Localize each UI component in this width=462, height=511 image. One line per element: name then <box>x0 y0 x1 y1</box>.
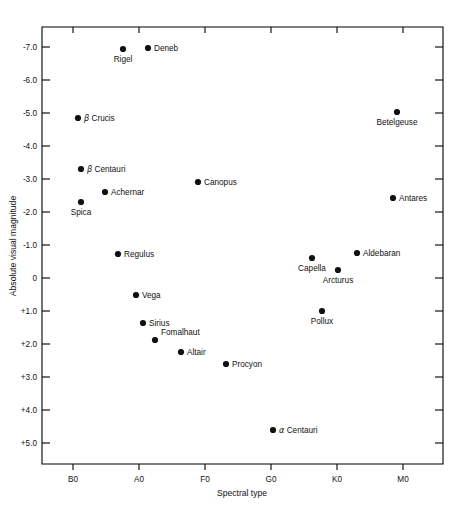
y-axis-title: Absolute visual magnitude <box>8 196 18 297</box>
data-point <box>133 292 139 298</box>
data-point-label: Achernar <box>111 188 144 197</box>
data-point <box>394 109 400 115</box>
x-tick-label-K0: K0 <box>332 475 342 484</box>
y-tick-label--3.0: -3.0 <box>23 175 38 184</box>
data-point-label: Fomalhaut <box>161 328 200 337</box>
data-point <box>178 349 184 355</box>
data-point-label: β Crucis <box>83 113 115 123</box>
data-point-label: Pollux <box>311 317 333 326</box>
y-tick-label--5.0: -5.0 <box>23 109 38 118</box>
data-point-label: Spica <box>71 208 92 217</box>
data-point <box>78 199 84 205</box>
x-tick-label-M0: M0 <box>397 475 409 484</box>
data-point-label: Antares <box>399 194 427 203</box>
y-tick-label-+1.0: +1.0 <box>21 307 38 316</box>
data-point <box>270 427 276 433</box>
data-point-label: Altair <box>187 348 206 357</box>
data-point-label: Rigel <box>114 55 133 64</box>
x-tick-label-A0: A0 <box>134 475 144 484</box>
data-point-label: Arcturus <box>323 276 353 285</box>
x-tick-label-B0: B0 <box>68 475 78 484</box>
data-point-label: Capella <box>298 264 326 273</box>
hr-diagram-figure: B0A0F0G0K0M0 -7.0-6.0-5.0-4.0-3.0-2.0-1.… <box>0 0 462 511</box>
axis-frame <box>42 27 443 464</box>
x-axis-title: Spectral type <box>217 488 267 498</box>
y-axis-tick-labels: -7.0-6.0-5.0-4.0-3.0-2.0-1.00+1.0+2.0+3.… <box>21 43 38 448</box>
data-point <box>140 320 146 326</box>
y-tick-label-+5.0: +5.0 <box>21 439 38 448</box>
data-point <box>152 337 158 343</box>
data-point-label: Deneb <box>154 44 179 53</box>
data-point-label: Vega <box>142 291 161 300</box>
data-point-label: Aldebaran <box>363 249 401 258</box>
data-point <box>145 45 151 51</box>
data-point-label: β Centauri <box>86 164 126 174</box>
y-tick-label--6.0: -6.0 <box>23 76 38 85</box>
x-axis-ticks <box>73 27 403 470</box>
data-point <box>319 308 325 314</box>
data-point-label: Canopus <box>204 178 237 187</box>
y-tick-label-+2.0: +2.0 <box>21 340 38 349</box>
y-axis-ticks <box>42 47 443 443</box>
y-tick-label--1.0: -1.0 <box>23 241 38 250</box>
x-tick-label-G0: G0 <box>266 475 277 484</box>
data-point-label: Regulus <box>124 250 154 259</box>
data-point-label: Procyon <box>232 360 262 369</box>
data-point <box>309 255 315 261</box>
data-point-label: Betelgeuse <box>377 118 418 127</box>
y-tick-label--7.0: -7.0 <box>23 43 38 52</box>
y-tick-label-+3.0: +3.0 <box>21 373 38 382</box>
data-point <box>78 166 84 172</box>
x-tick-label-F0: F0 <box>200 475 210 484</box>
data-point <box>115 251 121 257</box>
y-tick-label--2.0: -2.0 <box>23 208 38 217</box>
data-point-label: α Centauri <box>279 425 318 435</box>
scatter-plot-svg: B0A0F0G0K0M0 -7.0-6.0-5.0-4.0-3.0-2.0-1.… <box>0 0 462 511</box>
data-point <box>195 179 201 185</box>
data-point <box>390 195 396 201</box>
data-point <box>335 267 341 273</box>
data-point <box>223 361 229 367</box>
data-point <box>354 250 360 256</box>
y-tick-label--4.0: -4.0 <box>23 142 38 151</box>
data-point <box>102 189 108 195</box>
data-point-label: Sirius <box>149 319 169 328</box>
data-point-label-group: RigelDenebβ CrucisBetelgeuseβ CentauriCa… <box>71 44 427 435</box>
x-axis-tick-labels: B0A0F0G0K0M0 <box>68 475 409 484</box>
data-point <box>120 46 126 52</box>
y-tick-label-0: 0 <box>32 274 37 283</box>
data-point-group <box>75 45 400 433</box>
data-point <box>75 115 81 121</box>
y-tick-label-+4.0: +4.0 <box>21 406 38 415</box>
